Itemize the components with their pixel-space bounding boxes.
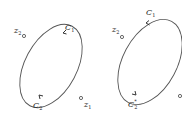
right-c2-label: C2* bbox=[128, 98, 137, 110]
left-z1-point bbox=[79, 96, 82, 99]
right-figure: z2 C1 C2* bbox=[105, 8, 182, 115]
left-z2-label: z2 bbox=[13, 26, 21, 36]
left-c2-arrow-icon bbox=[39, 95, 43, 99]
right-z2-label: z2 bbox=[111, 25, 119, 35]
right-z2-point bbox=[120, 35, 123, 38]
left-c2-label: C2 bbox=[33, 101, 42, 111]
right-z1-point bbox=[178, 94, 181, 97]
left-figure: z2 C1 C2 z1 bbox=[7, 14, 95, 118]
left-z1-label: z1 bbox=[83, 100, 91, 110]
right-c1-arrow-icon bbox=[146, 21, 150, 26]
left-c1-label: C1 bbox=[65, 23, 74, 33]
right-c2-arrow-icon bbox=[132, 91, 136, 95]
contour-diagram: z2 C1 C2 z1 z2 C1 C2* bbox=[0, 0, 182, 126]
left-z2-point bbox=[22, 34, 25, 37]
right-c1-label: C1 bbox=[146, 8, 155, 18]
